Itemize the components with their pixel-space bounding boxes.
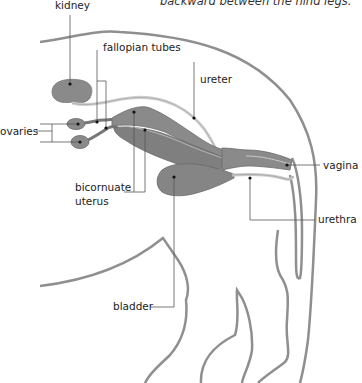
hind-leg-outline [201,290,252,383]
label-ureter: ureter [200,73,232,85]
label-kidney: kidney [55,0,90,11]
label-bicornuate-uterus-line2: uterus [75,195,109,207]
label-vagina: vagina [323,159,358,171]
label-bicornuate-uterus-line1: bicornuate [75,181,131,193]
reproductive-system-diagram [0,0,362,383]
label-fallopian-tubes: fallopian tubes [103,41,181,53]
label-urethra: urethra [318,213,357,225]
hind-leg-back-outline [258,230,288,383]
vagina-canal [222,148,292,170]
caption-text: backward between the hind legs. [160,0,351,8]
label-ovaries: ovaries [0,125,38,137]
fallopian-tube-lower [88,127,118,140]
label-bladder: bladder [113,300,153,312]
kidney-organ [52,79,92,102]
